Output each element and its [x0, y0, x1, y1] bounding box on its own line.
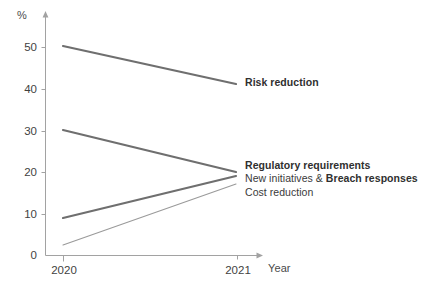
series-label-new-initiatives-breach-responses: New initiatives & Breach responses: [245, 172, 418, 184]
series-label-breach-responses: Breach responses: [326, 172, 418, 184]
x-tick-label-2021: 2021: [212, 264, 264, 276]
x-axis: [46, 253, 264, 259]
y-tick-label-40: 40: [11, 83, 37, 95]
line-chart: % Year 50 40 30 20 10 0 2020 2021 Risk r…: [0, 0, 424, 299]
y-tick-label-50: 50: [11, 41, 37, 53]
y-axis-title: %: [17, 9, 27, 21]
series-line-new-initiatives-breach-responses: [63, 176, 236, 218]
y-tick-label-20: 20: [11, 166, 37, 178]
x-tick-label-2020: 2020: [38, 264, 90, 276]
x-axis-ticks: [64, 256, 238, 262]
x-axis-title: Year: [268, 262, 291, 274]
series-label-new-initiatives-lead: New initiatives &: [245, 172, 326, 184]
series-line-cost-reduction: [63, 184, 236, 245]
chart-plot-area: [0, 0, 424, 299]
y-axis-ticks: [42, 48, 46, 215]
series-label-regulatory-requirements: Regulatory requirements: [245, 159, 370, 171]
series-label-risk-reduction: Risk reduction: [245, 76, 319, 88]
y-tick-label-0: 0: [11, 249, 37, 261]
y-tick-label-30: 30: [11, 125, 37, 137]
y-tick-label-10: 10: [11, 208, 37, 220]
series-line-regulatory-requirements: [63, 130, 236, 172]
series-line-risk-reduction: [63, 46, 236, 84]
series-label-cost-reduction: Cost reduction: [245, 186, 313, 198]
